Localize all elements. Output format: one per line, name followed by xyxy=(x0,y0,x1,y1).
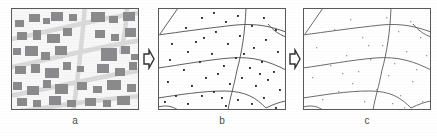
panel-c-frame xyxy=(303,8,431,110)
panel-a-frame xyxy=(11,8,139,110)
arrow-a-to-b xyxy=(143,48,155,70)
panel-b-network-points xyxy=(158,8,286,110)
arrow-b-to-c xyxy=(289,48,301,70)
panel-a-label: a xyxy=(11,115,139,127)
panel-b-label: b xyxy=(158,115,286,127)
panel-b-frame xyxy=(158,8,286,110)
panel-c-generalized-network xyxy=(303,8,431,110)
block-arrow-right-icon xyxy=(289,48,301,70)
panel-a-urban-map xyxy=(11,8,139,110)
block-arrow-right-icon xyxy=(143,48,155,70)
panel-c-label: c xyxy=(303,115,431,127)
figure-root: a xyxy=(0,0,437,136)
